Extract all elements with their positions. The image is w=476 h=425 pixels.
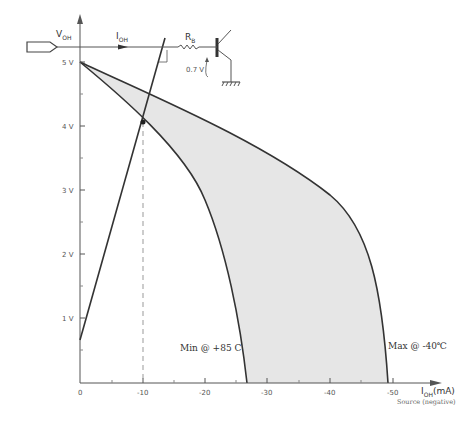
x-tick-20: -20 — [199, 389, 210, 397]
tolerance-region — [80, 62, 388, 383]
min-curve-label: Min @ +85 C — [180, 343, 241, 353]
x-axis: 0 -10 -20 -30 -40 -50 IOH(mA) Source (ne… — [78, 378, 456, 406]
circuit-schematic: VOH IOH RB 0.7 V — [27, 29, 240, 86]
x-tick-30: -30 — [261, 389, 272, 397]
x-axis-label: IOH(mA) — [421, 386, 455, 398]
y-tick-2v: 2 V — [62, 251, 74, 259]
voh-ioh-diagram: 5 V 4 V 3 V 2 V 1 V 0 -10 -20 -30 -40 -5… — [0, 0, 476, 425]
y-tick-1v: 1 V — [62, 315, 74, 323]
x-tick-0: 0 — [78, 389, 82, 397]
operating-point-dot — [141, 120, 146, 125]
output-pin-icon — [27, 42, 57, 52]
ioh-label: IOH — [116, 31, 128, 43]
x-tick-40: -40 — [324, 389, 335, 397]
x-tick-50: -50 — [387, 389, 398, 397]
y-tick-4v: 4 V — [62, 123, 74, 131]
resistor-icon — [178, 45, 212, 49]
voh-label: VOH — [56, 29, 71, 41]
y-tick-5v: 5 V — [62, 59, 74, 67]
max-curve-label: Max @ -40℃ — [388, 341, 447, 351]
current-arrow-icon — [118, 45, 128, 50]
rb-label: RB — [185, 32, 195, 44]
vbe-label: 0.7 V — [186, 66, 204, 74]
y-tick-3v: 3 V — [62, 187, 74, 195]
vbe-arrow-icon — [206, 60, 208, 77]
x-tick-10: -10 — [137, 389, 148, 397]
x-axis-note: Source (negative) — [397, 398, 456, 406]
ground-icon — [222, 82, 240, 86]
y-axis: 5 V 4 V 3 V 2 V 1 V — [62, 14, 85, 383]
